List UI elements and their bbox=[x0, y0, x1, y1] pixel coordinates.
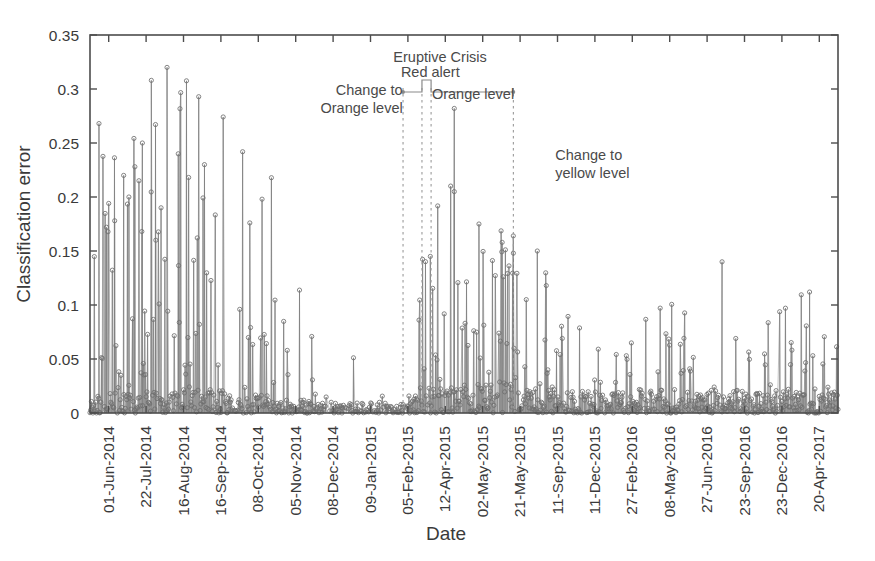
x-tick-label-5: 05-Nov-2014 bbox=[287, 426, 304, 516]
annotation-change-to-orange-line-2: Orange level bbox=[320, 100, 402, 116]
stem-plot-data-layer bbox=[88, 65, 840, 415]
x-tick-label-4: 08-Oct-2014 bbox=[249, 426, 266, 513]
y-tick-label-4: 0.2 bbox=[57, 189, 79, 206]
y-tick-label-5: 0.25 bbox=[49, 135, 79, 152]
x-tick-label-10: 02-May-2015 bbox=[474, 426, 491, 517]
y-tick-label-7: 0.35 bbox=[49, 27, 79, 44]
x-axis-label: Date bbox=[426, 523, 466, 544]
x-tick-label-0: 01-Jun-2014 bbox=[100, 426, 117, 513]
x-tick-label-17: 23-Sep-2016 bbox=[736, 426, 753, 516]
x-tick-label-7: 09-Jan-2015 bbox=[362, 426, 379, 513]
annotation-eruptive-crisis-line-1: Eruptive Crisis bbox=[393, 49, 486, 65]
y-axis-label: Classification error bbox=[13, 145, 34, 303]
x-tick-label-15: 08-May-2016 bbox=[661, 426, 678, 517]
annotation-orange-level-line-1: Orange level bbox=[432, 86, 514, 102]
x-tick-label-6: 08-Dec-2014 bbox=[324, 426, 341, 516]
x-tick-label-1: 22-Jul-2014 bbox=[137, 426, 154, 508]
annotation-change-to-yellow-line-1: Change to bbox=[555, 147, 622, 163]
x-tick-label-19: 20-Apr-2017 bbox=[810, 426, 827, 512]
y-tick-label-2: 0.1 bbox=[57, 297, 79, 314]
x-tick-label-12: 11-Sep-2015 bbox=[549, 426, 566, 514]
x-tick-label-13: 11-Dec-2015 bbox=[586, 426, 603, 514]
y-tick-label-0: 0 bbox=[70, 405, 79, 422]
chart-figure: 00.050.10.150.20.250.30.3501-Jun-201422-… bbox=[0, 0, 875, 561]
classification-error-chart: 00.050.10.150.20.250.30.3501-Jun-201422-… bbox=[0, 0, 875, 561]
y-tick-label-3: 0.15 bbox=[49, 243, 79, 260]
x-tick-label-14: 27-Feb-2016 bbox=[623, 426, 640, 515]
x-tick-label-3: 16-Sep-2014 bbox=[212, 426, 229, 516]
annotation-change-to-orange-line-1: Change to bbox=[336, 82, 403, 98]
chart-annotations: Change toOrange levelEruptive CrisisRed … bbox=[320, 49, 629, 181]
x-tick-label-2: 16-Aug-2014 bbox=[175, 426, 192, 516]
annotation-change-to-yellow-line-2: yellow level bbox=[555, 165, 629, 181]
annotation-red-alert-line-1: Red alert bbox=[401, 64, 460, 80]
stem-connector bbox=[90, 67, 838, 413]
x-tick-label-11: 21-May-2015 bbox=[511, 426, 528, 517]
y-tick-label-1: 0.05 bbox=[49, 351, 79, 368]
x-tick-label-18: 23-Dec-2016 bbox=[773, 426, 790, 516]
x-tick-label-8: 05-Feb-2015 bbox=[399, 426, 416, 515]
x-tick-label-9: 12-Apr-2015 bbox=[436, 426, 453, 512]
x-tick-label-16: 27-Jun-2016 bbox=[698, 426, 715, 513]
y-tick-label-6: 0.3 bbox=[57, 81, 79, 98]
